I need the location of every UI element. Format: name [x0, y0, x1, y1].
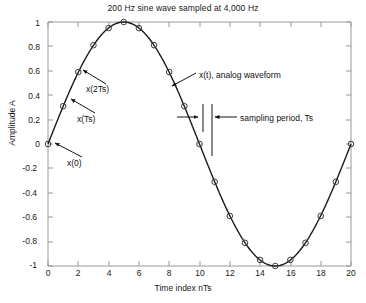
- arrow-x2ts: [83, 70, 106, 84]
- arrow-xt: [172, 73, 196, 86]
- plot-canvas: [0, 0, 366, 303]
- arrow-x0: [55, 143, 82, 157]
- annotation-arrows: [55, 70, 237, 157]
- arrow-xts: [71, 99, 95, 113]
- figure-caption-fragment: [8, 295, 360, 303]
- analog-waveform-curve: [48, 22, 351, 266]
- figure-sine-wave-sampling: 200 Hz sine wave sampled at 4,000 Hz Amp…: [0, 0, 366, 303]
